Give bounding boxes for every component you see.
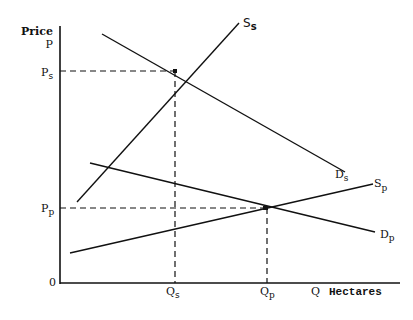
curve-label-ss: Ss [243,16,257,32]
x-axis-unit: Hectares [329,286,382,298]
equilibrium-point-s [173,69,177,73]
curve-label-ds: Ds [335,168,349,183]
curve-label-sp: Sp [374,177,388,193]
x-axis-symbol: Q [311,285,320,298]
curve-label-dp: Dp [380,228,395,243]
price-label-ps: Ps [41,66,53,81]
y-axis-title: Price [21,25,53,38]
supply-demand-diagram: Price P Ps Pp 0 Qs Qp Q Hectares Ss Ds S… [0,0,413,320]
supply-curve-ss [77,23,239,202]
demand-curve-ds [102,34,345,172]
demand-curve-dp [90,163,375,232]
y-axis-symbol: P [46,38,54,51]
quantity-label-qs: Qs [166,285,180,300]
equilibrium-point-p [263,206,268,210]
price-label-pp: Pp [41,202,54,217]
quantity-label-qp: Qp [260,285,275,300]
origin-label: 0 [49,276,56,289]
